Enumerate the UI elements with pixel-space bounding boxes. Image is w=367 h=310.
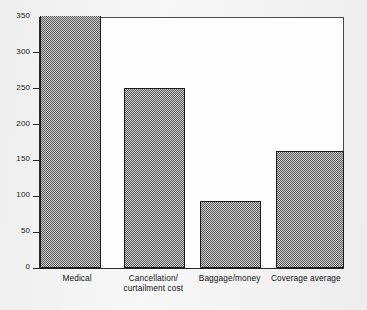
y-axis-tick-mark [33, 268, 39, 269]
y-axis-tick-label: 250 [16, 83, 30, 92]
bar [124, 88, 185, 268]
bar [40, 16, 101, 268]
y-axis-tick-label: 50 [21, 226, 30, 235]
bar-chart: 050100150200250300350 MedicalCancellatio… [0, 0, 367, 310]
y-axis-tick-mark [33, 124, 39, 125]
plot-area [39, 17, 344, 269]
y-axis: 050100150200250300350 [0, 0, 39, 310]
y-axis-tick-mark [33, 52, 39, 53]
y-axis-tick-mark [33, 232, 39, 233]
bar [276, 151, 344, 268]
x-axis-category-label: Coverage average [262, 273, 350, 283]
x-axis-category-label: Baggage/money [186, 273, 274, 283]
bar [200, 201, 261, 268]
y-axis-tick-label: 100 [16, 190, 30, 199]
y-axis-tick-label: 300 [16, 47, 30, 56]
y-axis-tick-label: 350 [16, 11, 30, 20]
x-axis-category-label: Cancellation/ curtailment cost [109, 273, 197, 293]
y-axis-tick-label: 200 [16, 119, 30, 128]
y-axis-tick-mark [33, 160, 39, 161]
x-axis-category-label: Medical [33, 273, 121, 283]
y-axis-tick-label: 150 [16, 154, 30, 163]
y-axis-tick-mark [33, 196, 39, 197]
y-axis-tick-label: 0 [25, 262, 30, 271]
y-axis-tick-mark [33, 88, 39, 89]
